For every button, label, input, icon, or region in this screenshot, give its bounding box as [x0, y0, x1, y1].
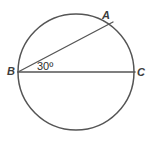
point-label-b: B: [7, 66, 15, 77]
geometry-figure: A B C 30º: [0, 0, 151, 142]
angle-measure-label: 30º: [37, 61, 53, 72]
point-label-c: C: [137, 67, 145, 78]
circle-diagram-svg: [0, 0, 151, 142]
point-label-a: A: [102, 10, 110, 21]
segment-chord-ba: [18, 22, 113, 72]
